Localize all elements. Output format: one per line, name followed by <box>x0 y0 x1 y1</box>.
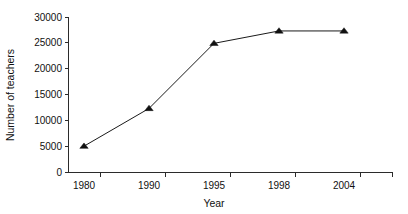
x-tick-label-1998: 1998 <box>268 180 291 191</box>
x-tick-label-2004: 2004 <box>333 180 356 191</box>
data-point-marker-1998 <box>275 28 283 33</box>
x-tick-label-1990: 1990 <box>138 180 161 191</box>
data-point-marker-1980 <box>80 143 88 148</box>
line-chart: Number of teachers 30000 25000 20000 150… <box>0 0 408 214</box>
x-axis-title: Year <box>203 197 225 209</box>
y-tick-label-5000: 5000 <box>40 141 63 152</box>
y-axis-title: Number of teachers <box>4 49 16 141</box>
series-line <box>84 31 344 146</box>
y-tick-label-25000: 25000 <box>34 37 62 48</box>
data-series-layer <box>80 28 348 149</box>
y-tick-label-15000: 15000 <box>34 89 62 100</box>
chart-figure: Number of teachers 30000 25000 20000 150… <box>0 0 408 214</box>
y-tick-label-20000: 20000 <box>34 63 62 74</box>
y-tick-label-30000: 30000 <box>34 12 62 23</box>
y-tick-label-10000: 10000 <box>34 115 62 126</box>
x-tick-label-1980: 1980 <box>73 180 96 191</box>
y-tick-label-0: 0 <box>56 167 62 178</box>
x-tick-label-1995: 1995 <box>203 180 226 191</box>
data-point-marker-2004 <box>340 28 348 33</box>
